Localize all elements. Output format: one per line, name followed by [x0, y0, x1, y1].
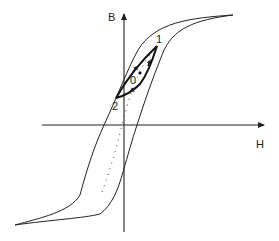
- hysteresis-diagram: B H 1 0 2: [0, 0, 279, 241]
- point-1-label: 1: [156, 33, 162, 45]
- point-0-dot: [138, 71, 141, 74]
- b-axis-label: B: [108, 11, 115, 23]
- point-0-label: 0: [130, 74, 136, 86]
- h-axis-label: H: [256, 138, 264, 150]
- point-2-label: 2: [112, 100, 118, 112]
